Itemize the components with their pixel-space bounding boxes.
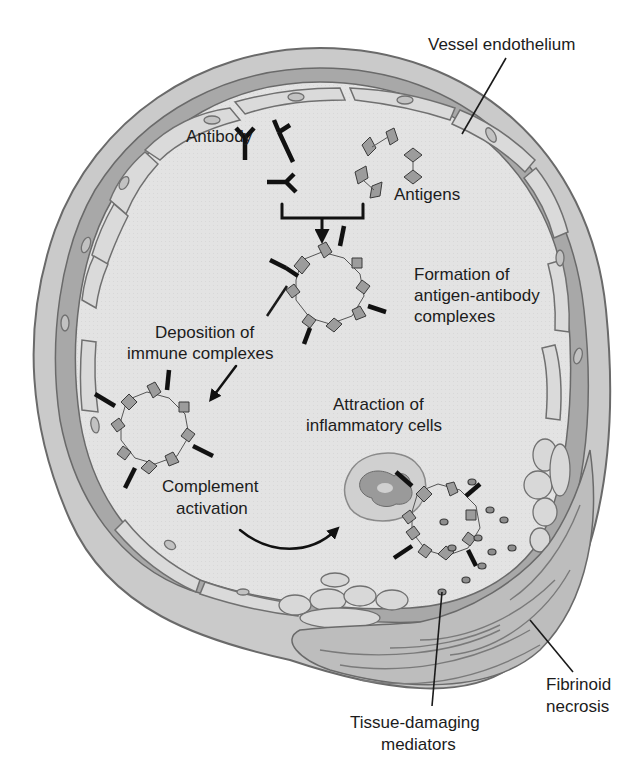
label-fibrinoid-2: necrosis bbox=[546, 697, 609, 716]
immune-complex-vasculitis-diagram: Vessel endothelium Antibody Antigens For… bbox=[0, 0, 640, 760]
label-fibrinoid-1: Fibrinoid bbox=[546, 675, 611, 694]
label-attraction-2: inflammatory cells bbox=[306, 416, 442, 435]
label-complement-2: activation bbox=[176, 499, 248, 518]
label-antigens: Antigens bbox=[394, 185, 460, 204]
label-formation-2: antigen-antibody bbox=[414, 286, 540, 305]
label-complement-1: Complement bbox=[162, 477, 259, 496]
label-tissue-2: mediators bbox=[381, 735, 456, 754]
label-vessel-endothelium: Vessel endothelium bbox=[428, 35, 575, 54]
label-formation-3: complexes bbox=[414, 307, 495, 326]
label-deposition-2: immune complexes bbox=[127, 344, 273, 363]
inflammatory-cell bbox=[345, 453, 426, 521]
label-tissue-1: Tissue-damaging bbox=[350, 713, 480, 732]
label-attraction-1: Attraction of bbox=[333, 395, 424, 414]
label-formation-1: Formation of bbox=[414, 265, 510, 284]
vessel bbox=[34, 48, 611, 688]
label-deposition-1: Deposition of bbox=[155, 323, 255, 342]
label-antibody: Antibody bbox=[186, 127, 253, 146]
